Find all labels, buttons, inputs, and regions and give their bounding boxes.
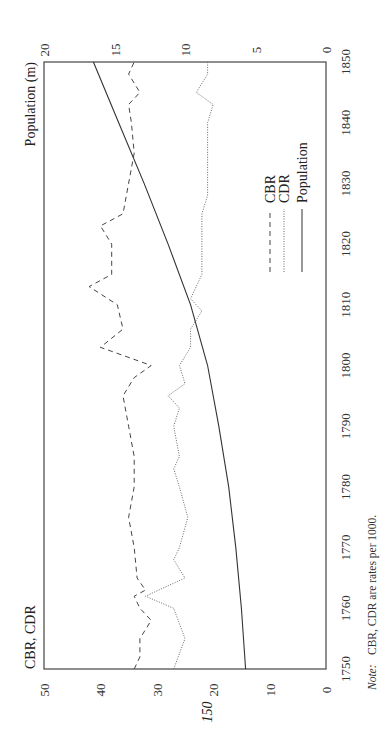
right-axis-tick-label: 20 — [37, 44, 52, 57]
year-tick-label: 1810 — [338, 292, 353, 318]
right-axis-tick-label: 15 — [108, 44, 123, 57]
left-axis-tick-label: 0 — [319, 687, 334, 694]
year-tick-label: 1820 — [338, 231, 353, 257]
page-number: 150 — [200, 702, 215, 723]
series-cdr-line — [146, 62, 214, 669]
year-tick-label: 1790 — [338, 413, 353, 439]
year-tick-label: 1840 — [338, 110, 353, 136]
year-tick-label: 1830 — [338, 170, 353, 196]
legend: CBR CDR Population — [263, 142, 310, 272]
legend-cbr-label: CBR — [263, 174, 278, 203]
legend-cdr-label: CDR — [277, 174, 292, 203]
left-axis-tick-label: 20 — [206, 684, 221, 697]
legend-population-label: Population — [295, 142, 310, 203]
right-axis-tick-label: 0 — [319, 47, 334, 54]
left-axis-tick-label: 40 — [93, 684, 108, 697]
right-axis-title: Population (m) — [23, 62, 39, 147]
tick-layer: 1750176017701780179018001810182018301840… — [37, 44, 353, 697]
right-axis-tick-label: 10 — [178, 44, 193, 57]
year-tick-label: 1800 — [338, 353, 353, 379]
left-axis-title: CBR, CDR — [23, 605, 38, 669]
year-tick-label: 1760 — [338, 595, 353, 621]
note-text: CBR, CDR are rates per 1000. — [366, 515, 379, 655]
series-cbr-line — [89, 62, 151, 669]
plot-frame — [44, 62, 326, 669]
left-axis-tick-label: 30 — [150, 684, 165, 697]
year-tick-label: 1850 — [338, 49, 353, 75]
series-layer — [89, 62, 246, 669]
series-population-line — [93, 62, 245, 669]
left-axis-tick-label: 50 — [37, 684, 52, 697]
year-tick-label: 1780 — [338, 474, 353, 500]
right-axis-tick-label: 5 — [249, 47, 264, 54]
year-tick-label: 1750 — [338, 656, 353, 682]
left-axis-tick-label: 10 — [263, 684, 278, 697]
year-tick-label: 1770 — [338, 535, 353, 561]
note-label: Note: — [366, 664, 378, 691]
chart: 1750176017701780179018001810182018301840… — [0, 0, 392, 734]
